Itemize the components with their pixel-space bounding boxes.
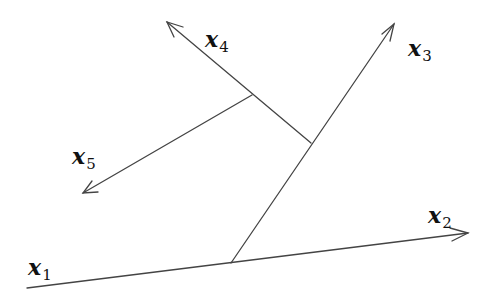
line-x4	[167, 22, 311, 143]
line-x3	[231, 24, 394, 263]
line-x1-x2	[27, 233, 468, 288]
label-x2: x2	[428, 204, 452, 226]
label-x3: x3	[408, 37, 432, 59]
line-x5	[83, 95, 252, 193]
vector-diagram: x4 x3 x5 x1 x2	[0, 0, 491, 300]
label-x5: x5	[72, 145, 96, 167]
label-x1: x1	[28, 256, 52, 278]
label-x4: x4	[205, 28, 229, 50]
